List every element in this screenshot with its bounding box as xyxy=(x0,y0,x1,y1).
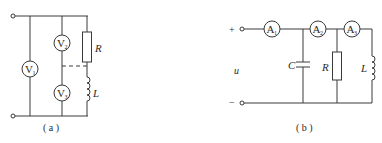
svg-text:3: 3 xyxy=(65,94,68,100)
voltmeter-v1: V 1 xyxy=(22,61,38,77)
svg-text:1: 1 xyxy=(33,70,36,76)
svg-text:2: 2 xyxy=(65,44,68,50)
resistor-b xyxy=(333,52,342,80)
circuit-figure: V 1 V 2 V 3 R L ( a ) + − u xyxy=(0,0,382,143)
resistor-a xyxy=(83,32,92,62)
ammeter-a2: A 2 xyxy=(310,21,326,37)
plus-sign: + xyxy=(229,24,235,35)
voltmeter-v2: V 2 xyxy=(54,35,70,51)
svg-text:3: 3 xyxy=(354,30,357,36)
voltage-label: u xyxy=(234,65,239,76)
capacitor-label: C xyxy=(288,59,296,71)
svg-text:1: 1 xyxy=(274,30,277,36)
resistor-label-b: R xyxy=(321,61,329,73)
voltmeter-v3: V 3 xyxy=(54,85,70,101)
svg-text:2: 2 xyxy=(320,30,323,36)
caption-b: ( b ) xyxy=(296,122,313,134)
circuit-a: V 1 V 2 V 3 R L ( a ) xyxy=(11,14,102,134)
inductor-label-a: L xyxy=(92,87,99,99)
capacitor xyxy=(296,62,310,67)
terminal-plus xyxy=(240,27,244,31)
inductor-b xyxy=(372,56,375,80)
inductor-a xyxy=(87,77,90,101)
terminal-minus xyxy=(240,101,244,105)
minus-sign: − xyxy=(229,97,235,108)
terminal-top-a xyxy=(11,14,15,18)
caption-a: ( a ) xyxy=(43,122,59,134)
resistor-label-a: R xyxy=(94,42,102,54)
inductor-label-b: L xyxy=(360,62,367,74)
ammeter-a3: A 3 xyxy=(344,21,360,37)
ammeter-a1: A 1 xyxy=(264,21,280,37)
circuit-b: + − u A 1 A 2 A 3 xyxy=(229,21,375,134)
terminal-bottom-a xyxy=(11,114,15,118)
